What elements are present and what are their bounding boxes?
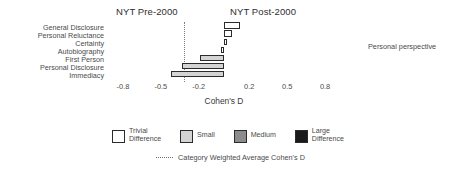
bar-row (104, 30, 344, 38)
category-axis-labels: General Disclosure Personal Reluctance C… (0, 24, 104, 80)
x-tick: -0.5 (154, 82, 167, 91)
x-tick: -0.2 (192, 82, 205, 91)
bar[interactable] (224, 30, 232, 37)
bar[interactable] (200, 55, 224, 62)
legend-label: Medium (251, 132, 276, 140)
legend-label: Trivial Difference (129, 128, 161, 144)
dotted-line-icon (156, 157, 173, 158)
bar[interactable] (182, 63, 224, 70)
bar[interactable] (221, 47, 224, 54)
legend-swatch-icon (112, 130, 125, 143)
legend-swatch-icon (295, 130, 308, 143)
x-tick: 0.8 (320, 82, 330, 91)
legend-label: Large Difference (312, 128, 344, 144)
category-label: Immediacy (0, 72, 104, 80)
legend-label: Small (197, 132, 215, 140)
bar[interactable] (171, 71, 224, 78)
legend-item[interactable]: Medium (234, 130, 276, 143)
x-tick: 0.5 (282, 82, 292, 91)
bar-row (104, 22, 344, 30)
legend-item[interactable]: Small (180, 130, 215, 143)
bar-row (104, 70, 344, 78)
x-axis-ticks: -0.8 -0.5 -0.2 0.2 0.5 0.8 (104, 82, 344, 94)
average-line-legend: Category Weighted Average Cohen's D (0, 153, 461, 162)
chart-figure: NYT Pre-2000 NYT Post-2000 General Discl… (0, 0, 461, 171)
legend-item[interactable]: Large Difference (295, 128, 344, 144)
bar-row (104, 54, 344, 62)
legend-item[interactable]: Trivial Difference (112, 128, 161, 144)
panel-title-right: NYT Post-2000 (230, 6, 296, 17)
x-tick: -0.8 (117, 82, 130, 91)
x-axis-title: Cohen's D (104, 96, 344, 106)
side-annotation: Personal perspective (368, 42, 436, 51)
bar-row (104, 46, 344, 54)
legend-swatch-icon (234, 130, 247, 143)
panel-title-left: NYT Pre-2000 (116, 6, 178, 17)
bar[interactable] (224, 22, 240, 29)
bar-row (104, 62, 344, 70)
bar-row (104, 38, 344, 46)
legend: Trivial Difference Small Medium Large Di… (112, 124, 344, 148)
average-line-legend-label: Category Weighted Average Cohen's D (178, 153, 305, 162)
x-tick: 0.2 (244, 82, 254, 91)
legend-swatch-icon (180, 130, 193, 143)
plot-area (104, 22, 344, 82)
bar[interactable] (224, 39, 227, 46)
